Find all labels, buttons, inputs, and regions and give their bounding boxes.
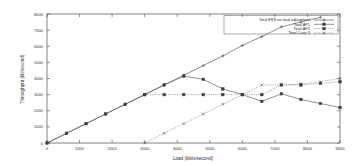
x-tick-label: 9000 [335, 146, 345, 151]
y-tick-label: 4000 [34, 76, 44, 81]
y-tick-label: 3000 [34, 92, 44, 97]
x-tick-label: 8000 [303, 146, 313, 151]
y-tick-label: 8000 [34, 12, 44, 17]
x-tick-label: 1000 [75, 146, 85, 151]
x-tick-label: 2000 [108, 146, 118, 151]
y-tick-label: 1000 [34, 124, 44, 129]
chart-svg: 010002000300040005000600070008000 010002… [0, 0, 353, 166]
y-tick-label: 6000 [34, 44, 44, 49]
legend-label: Total Case II [288, 30, 310, 35]
x-axis-title: Load (kbits/second) [173, 156, 214, 161]
x-tick-label: 6000 [238, 146, 248, 151]
x-tick-label: 7000 [270, 146, 280, 151]
y-axis-title: Throughput (kb/second) [20, 54, 25, 103]
y-tick-label: 5000 [34, 60, 44, 65]
y-tick-label: 2000 [34, 108, 44, 113]
chart-figure: 010002000300040005000600070008000 010002… [0, 0, 353, 166]
x-tick-label: 4000 [173, 146, 183, 151]
x-tick-label: 5000 [205, 146, 215, 151]
x-tick-label: 3000 [140, 146, 150, 151]
y-tick-label: 7000 [34, 28, 44, 33]
